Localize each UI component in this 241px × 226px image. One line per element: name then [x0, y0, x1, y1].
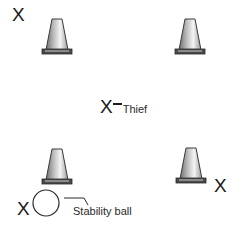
- thief-leader-line: [113, 103, 122, 105]
- player-x-bottom-right: X: [214, 176, 227, 195]
- thief-label: Thief: [123, 104, 147, 115]
- player-x-top-left: X: [12, 5, 25, 24]
- cone-icon-top-left: [41, 17, 73, 56]
- cone-icon-bottom-left: [41, 147, 73, 186]
- thief-marker: X Thief: [100, 97, 147, 116]
- thief-x: X: [100, 97, 113, 116]
- stability-ball-label: Stability ball: [73, 206, 132, 217]
- cone-icon-bottom-right: [175, 146, 207, 185]
- cone-icon-top-right: [174, 17, 206, 56]
- player-x-bottom-left: X: [17, 199, 30, 218]
